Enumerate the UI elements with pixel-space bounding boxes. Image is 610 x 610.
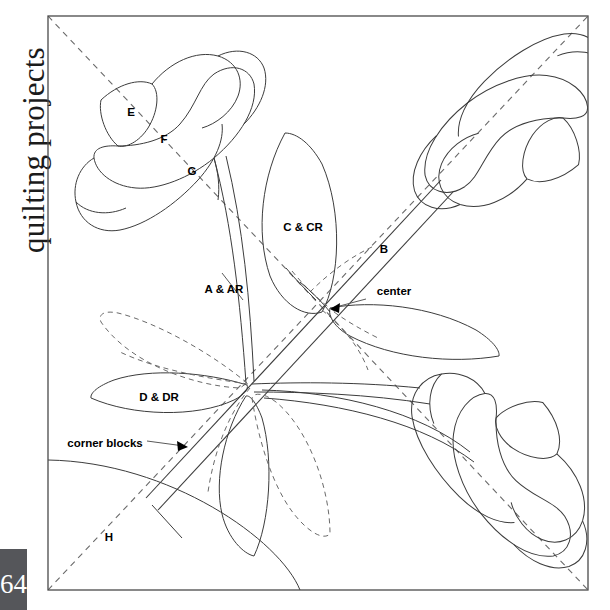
leaf-right-outline bbox=[330, 305, 499, 360]
lily-br-upper-curl bbox=[510, 452, 587, 543]
lily-tl-petal-F bbox=[94, 68, 255, 189]
construction-guides bbox=[48, 16, 588, 590]
frond-dashed-1 bbox=[120, 352, 248, 384]
label-C-CR: C & CR bbox=[283, 221, 323, 233]
center-knot-line2 bbox=[286, 268, 316, 300]
leaf-lower-center bbox=[219, 394, 330, 556]
center-knot-line1 bbox=[300, 282, 330, 312]
label-E: E bbox=[127, 106, 135, 118]
corner-block-seam bbox=[152, 505, 182, 538]
lily-tl-outer-curl bbox=[218, 51, 266, 124]
lily-tr-upper-curl bbox=[438, 132, 529, 209]
label-B: B bbox=[380, 243, 388, 255]
book-page: quilting projects 64 bbox=[0, 0, 610, 610]
leaf-lower-dashed bbox=[252, 394, 330, 536]
center-knot bbox=[286, 268, 330, 312]
lily-tl-upper-curl bbox=[152, 54, 240, 128]
label-corner-blocks: corner blocks bbox=[67, 437, 142, 449]
lily-tl-petal-G bbox=[75, 124, 222, 231]
corner-arc-H bbox=[48, 460, 300, 590]
label-H: H bbox=[105, 531, 113, 543]
stem-AR-mirror-edge bbox=[252, 383, 420, 388]
frond-dashed-2 bbox=[208, 388, 250, 492]
label-D-DR: D & DR bbox=[139, 391, 179, 403]
leaf-right-dashed-vein bbox=[334, 312, 378, 338]
stem-A-right-edge bbox=[226, 156, 254, 381]
lily-tl-lower-lobe bbox=[76, 202, 126, 213]
lily-br-petal-E bbox=[494, 400, 561, 459]
lily-tr-petal-F bbox=[424, 71, 589, 197]
label-G: G bbox=[188, 165, 197, 177]
leader-lines bbox=[147, 273, 366, 446]
label-A-AR: A & AR bbox=[205, 283, 244, 295]
label-F: F bbox=[160, 133, 167, 145]
leaf-DR-reverse-dashed bbox=[100, 312, 247, 388]
stem-lower-right-edge2 bbox=[264, 398, 474, 462]
lily-tr-petal-G bbox=[458, 30, 609, 142]
lily-tr-lower-lobe bbox=[557, 51, 607, 64]
lily-br-lower-lobe bbox=[429, 374, 442, 424]
guide-diagonal-sw-ne bbox=[48, 16, 588, 590]
leaf-right bbox=[330, 305, 499, 360]
lily-bottom-right bbox=[406, 372, 592, 569]
stem-A-AR bbox=[214, 156, 430, 404]
lily-top-left bbox=[75, 51, 266, 231]
label-center: center bbox=[377, 285, 412, 297]
quilt-block-diagram: E F G C & CR B A & AR center D & DR corn… bbox=[0, 0, 610, 610]
corner-arc-H-outer bbox=[48, 460, 300, 590]
lily-br-petal-F bbox=[449, 392, 575, 557]
stem-lower-right bbox=[262, 390, 474, 462]
lily-tr-petal-E bbox=[522, 116, 581, 183]
block-frame bbox=[48, 16, 588, 590]
leaf-lower-solid bbox=[219, 396, 269, 556]
lily-top-right bbox=[412, 28, 609, 214]
guide-diagonal-nw-se bbox=[48, 16, 588, 590]
